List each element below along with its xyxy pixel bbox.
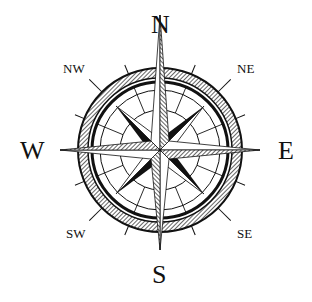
label-south: S [152,262,166,288]
label-east: E [278,138,294,164]
compass-rose: N S E W NE NW SE SW [0,0,312,302]
label-southeast: SE [237,227,252,240]
label-north: N [151,12,170,38]
label-southwest: SW [66,227,86,240]
label-west: W [20,138,45,164]
compass-rose-icon [0,0,312,302]
label-northwest: NW [63,62,85,75]
label-northeast: NE [237,62,254,75]
